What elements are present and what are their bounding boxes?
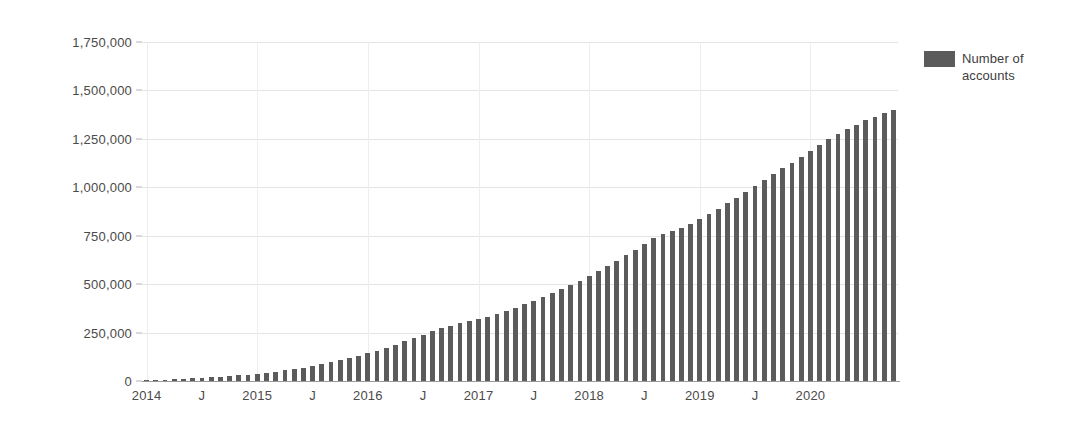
bar: [559, 289, 564, 381]
bar: [255, 374, 260, 381]
x-axis-tick-label: 2016: [353, 388, 383, 403]
bar: [338, 360, 343, 381]
bar-chart: 0250,000500,000750,0001,000,0001,250,000…: [0, 0, 1079, 439]
x-axis-tick-label: 2015: [242, 388, 272, 403]
x-axis: 2014J2015J2016J2017J2018J2019J2020: [0, 388, 1079, 412]
bar: [605, 266, 610, 381]
bar: [799, 157, 804, 381]
bar: [550, 293, 555, 381]
bar: [513, 308, 518, 381]
bar: [679, 228, 684, 381]
bar: [817, 145, 822, 381]
bar: [329, 362, 334, 381]
bar: [568, 285, 573, 381]
bar: [375, 351, 380, 381]
y-axis-tick-label: 1,750,000: [0, 35, 132, 50]
bar: [430, 331, 435, 381]
bar: [485, 317, 490, 382]
bar: [587, 276, 592, 381]
y-axis: 0250,000500,000750,0001,000,0001,250,000…: [0, 0, 132, 439]
bar: [596, 271, 601, 381]
y-axis-tick-label: 1,000,000: [0, 180, 132, 195]
bar: [347, 358, 352, 381]
bar: [522, 304, 527, 381]
bar: [688, 224, 693, 381]
bar: [716, 209, 721, 381]
bar: [421, 335, 426, 381]
x-axis-tick-label: J: [199, 388, 206, 403]
bar: [273, 372, 278, 381]
bar: [495, 314, 500, 381]
bar: [873, 117, 878, 381]
y-axis-tick-label: 500,000: [0, 277, 132, 292]
y-axis-tick-label: 750,000: [0, 228, 132, 243]
bar: [531, 301, 536, 381]
bar: [826, 139, 831, 381]
bar: [578, 281, 583, 381]
bar: [734, 198, 739, 381]
bar: [356, 356, 361, 381]
x-axis-tick-label: 2020: [796, 388, 826, 403]
bar: [845, 129, 850, 381]
bar: [762, 180, 767, 381]
bar: [412, 338, 417, 381]
bar: [651, 238, 656, 381]
y-axis-tick-label: 1,250,000: [0, 131, 132, 146]
bar: [854, 125, 859, 381]
bar: [292, 369, 297, 381]
bar: [808, 151, 813, 381]
x-axis-tick-label: J: [530, 388, 537, 403]
bar: [467, 321, 472, 381]
bar: [670, 231, 675, 381]
y-axis-tick-label: 250,000: [0, 325, 132, 340]
x-axis-tick-label: 2018: [574, 388, 604, 403]
y-axis-tick-label: 0: [0, 374, 132, 389]
chart-legend: Number of accounts: [924, 50, 1072, 84]
bar: [301, 368, 306, 381]
bar: [365, 353, 370, 381]
bar: [863, 120, 868, 381]
bar: [743, 192, 748, 381]
bar: [771, 174, 776, 381]
bar: [836, 134, 841, 381]
x-axis-line: [142, 381, 900, 382]
bar: [882, 113, 887, 381]
bar-series-number-of-accounts: [142, 42, 898, 381]
x-axis-tick-label: J: [641, 388, 648, 403]
bar: [753, 186, 758, 381]
bar: [458, 323, 463, 381]
x-axis-tick-label: 2014: [132, 388, 162, 403]
bar: [633, 250, 638, 381]
bar: [780, 168, 785, 381]
bar: [504, 311, 509, 381]
bar: [384, 348, 389, 381]
bar: [661, 234, 666, 381]
bar: [790, 163, 795, 382]
plot-area: [142, 42, 898, 381]
legend-swatch-number-of-accounts: [924, 51, 955, 67]
x-axis-tick-label: J: [420, 388, 427, 403]
x-axis-tick-label: 2019: [685, 388, 715, 403]
bar: [393, 345, 398, 381]
bar: [402, 341, 407, 381]
legend-label-number-of-accounts: Number of accounts: [962, 50, 1072, 84]
bar: [541, 297, 546, 381]
bar: [642, 244, 647, 381]
bar: [707, 214, 712, 381]
bar: [624, 255, 629, 381]
bar: [725, 203, 730, 381]
bar: [283, 370, 288, 381]
bar: [614, 261, 619, 381]
bar: [891, 110, 896, 381]
bar: [264, 373, 269, 381]
bar: [697, 219, 702, 381]
bar: [448, 326, 453, 381]
bar: [476, 319, 481, 381]
y-axis-tick-label: 1,500,000: [0, 83, 132, 98]
x-axis-tick-label: J: [309, 388, 316, 403]
bar: [439, 328, 444, 381]
x-axis-tick-label: J: [752, 388, 759, 403]
bar: [310, 366, 315, 381]
x-axis-tick-label: 2017: [464, 388, 494, 403]
bar: [319, 364, 324, 381]
